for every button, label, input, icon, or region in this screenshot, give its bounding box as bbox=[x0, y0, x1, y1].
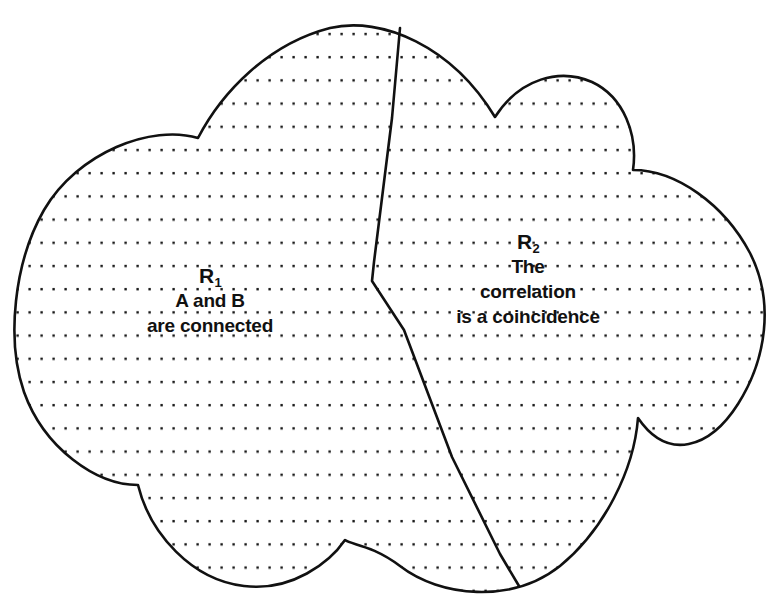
cloud-shape-svg bbox=[0, 0, 776, 613]
cloud-diagram: R1 A and B are connected R2 The correlat… bbox=[0, 0, 776, 613]
